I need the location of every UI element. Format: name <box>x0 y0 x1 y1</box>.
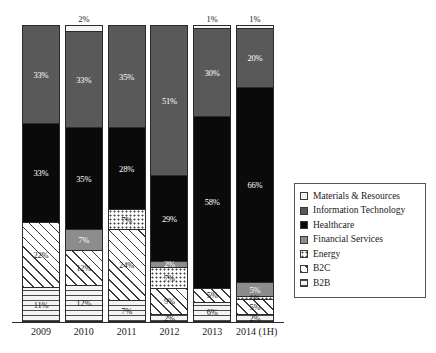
bar-segment[interactable]: 7% <box>151 268 187 289</box>
segment-value-label: 33% <box>23 70 59 79</box>
segment-value-label: 22% <box>23 250 59 259</box>
segment-value-label: 2% <box>66 15 102 24</box>
segment-value-label: 1% <box>194 15 230 24</box>
x-axis-tick-label: 2014 (1H) <box>236 324 274 342</box>
bar-stack[interactable]: 51%29%2%7%9%2% <box>150 25 188 322</box>
legend-item-label: Materials & Resources <box>313 191 400 202</box>
bar-column: 35%28%7%24%7% <box>108 6 146 322</box>
legend-item-label: B2B <box>313 278 330 289</box>
segment-value-label: 20% <box>237 53 273 62</box>
bar-segment[interactable]: 7% <box>66 230 102 250</box>
legend-item-label: Healthcare <box>313 220 354 231</box>
segment-value-label: 66% <box>237 180 273 189</box>
bar-segment[interactable]: 33% <box>23 26 59 124</box>
bar-segment[interactable]: 12% <box>66 251 102 286</box>
legend-swatch-icon <box>300 250 308 258</box>
segment-value-label: 33% <box>23 168 59 177</box>
legend-item-label: Financial Services <box>313 234 383 245</box>
segment-value-label: 35% <box>66 174 102 183</box>
legend-swatch-icon <box>300 207 308 215</box>
bar-stack[interactable]: 2%33%35%7%12%12% <box>65 25 103 322</box>
legend-swatch-icon <box>300 221 308 229</box>
segment-value-label: 7% <box>109 306 145 315</box>
x-axis-tick-labels: 200920102011201220132014 (1H) <box>12 324 284 342</box>
bar-segment[interactable]: 22% <box>23 223 59 289</box>
x-axis-line <box>12 322 284 323</box>
bar-column: 51%29%2%7%9%2% <box>150 6 188 322</box>
legend-item[interactable]: B2B <box>300 276 421 291</box>
segment-value-label: 12% <box>66 299 102 308</box>
segment-value-label: 1% <box>237 15 273 24</box>
bar-segment[interactable]: 2% <box>237 315 273 321</box>
segment-value-label: 35% <box>109 72 145 81</box>
legend-item[interactable]: Energy <box>300 247 421 262</box>
bar-segment[interactable]: 66% <box>237 88 273 283</box>
bar-segment[interactable]: 12% <box>66 286 102 321</box>
bar-segment[interactable]: 24% <box>109 230 145 300</box>
segment-value-label: 29% <box>151 214 187 223</box>
x-axis-tick-label: 2012 <box>150 324 188 342</box>
segment-value-label: 33% <box>66 75 102 84</box>
segment-value-label: 9% <box>151 297 187 306</box>
x-axis-tick-label: 2011 <box>108 324 146 342</box>
segment-value-label: 51% <box>151 96 187 105</box>
legend-item[interactable]: B2C <box>300 262 421 277</box>
x-axis-tick-label: 2010 <box>65 324 103 342</box>
segment-value-label: 12% <box>66 263 102 272</box>
bar-stack[interactable]: 33%33%22%11% <box>22 25 60 322</box>
bar-column: 1%20%66%5%1%5%2% <box>236 6 274 322</box>
bar-segment[interactable]: 28% <box>109 128 145 210</box>
bar-segment[interactable]: 5% <box>194 289 230 304</box>
legend-swatch-icon <box>300 236 308 244</box>
bar-column: 1%30%58%5%6% <box>193 6 231 322</box>
bar-segment[interactable]: 6% <box>194 303 230 321</box>
segment-value-label: 11% <box>23 300 59 309</box>
legend-item[interactable]: Healthcare <box>300 218 421 233</box>
bar-segment[interactable]: 58% <box>194 117 230 288</box>
legend-item-label: B2C <box>313 263 330 274</box>
plot-area: 33%33%22%11%2%33%35%7%12%12%35%28%7%24%7… <box>12 6 284 326</box>
bars-container: 33%33%22%11%2%33%35%7%12%12%35%28%7%24%7… <box>12 6 284 322</box>
x-axis-tick-label: 2009 <box>22 324 60 342</box>
bar-column: 2%33%35%7%12%12% <box>65 6 103 322</box>
chart-legend: Materials & ResourcesInformation Technol… <box>294 183 426 298</box>
segment-value-label: 7% <box>151 273 187 282</box>
bar-segment[interactable]: 7% <box>109 301 145 321</box>
bar-segment[interactable]: 33% <box>23 124 59 222</box>
segment-value-label: 30% <box>194 68 230 77</box>
bar-stack[interactable]: 1%30%58%5%6% <box>193 25 231 322</box>
bar-stack[interactable]: 1%20%66%5%1%5%2% <box>236 25 274 322</box>
bar-segment[interactable]: 2% <box>151 315 187 321</box>
bar-segment[interactable]: 20% <box>237 29 273 88</box>
bar-segment[interactable]: 7% <box>109 210 145 230</box>
bar-segment[interactable]: 33% <box>66 32 102 128</box>
bar-segment[interactable]: 35% <box>109 26 145 128</box>
bar-stack[interactable]: 35%28%7%24%7% <box>108 25 146 322</box>
legend-item[interactable]: Materials & Resources <box>300 189 421 204</box>
legend-item-label: Energy <box>313 249 340 260</box>
bar-column: 33%33%22%11% <box>22 6 60 322</box>
legend-item-label: Information Technology <box>313 205 405 216</box>
segment-value-label: 5% <box>194 291 230 300</box>
segment-value-label: 58% <box>194 198 230 207</box>
x-axis-tick-label: 2013 <box>193 324 231 342</box>
bar-segment[interactable]: 9% <box>151 289 187 316</box>
segment-value-label: 7% <box>66 236 102 245</box>
segment-value-label: 28% <box>109 164 145 173</box>
legend-item[interactable]: Information Technology <box>300 204 421 219</box>
bar-segment[interactable]: 30% <box>194 29 230 118</box>
legend-swatch-icon <box>300 279 308 287</box>
segment-value-label: 7% <box>109 215 145 224</box>
legend-item[interactable]: Financial Services <box>300 233 421 248</box>
legend-swatch-icon <box>300 192 308 200</box>
legend-swatch-icon <box>300 265 308 273</box>
segment-value-label: 5% <box>237 303 273 312</box>
bar-segment[interactable]: 35% <box>66 128 102 230</box>
bar-segment[interactable]: 11% <box>23 288 59 321</box>
segment-value-label: 24% <box>109 260 145 269</box>
bar-segment[interactable]: 29% <box>151 176 187 262</box>
stacked-bar-chart: 33%33%22%11%2%33%35%7%12%12%35%28%7%24%7… <box>0 0 436 353</box>
bar-segment[interactable]: 51% <box>151 26 187 176</box>
segment-value-label: 6% <box>194 308 230 317</box>
